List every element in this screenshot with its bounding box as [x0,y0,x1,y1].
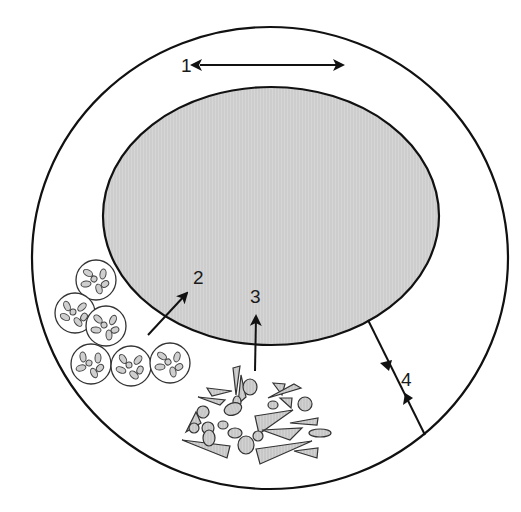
debris-particle [243,379,257,395]
debris-particle [238,436,254,454]
route-4-label: 4 [401,369,412,390]
route-2-label: 2 [193,267,204,288]
debris-particle [268,401,278,409]
debris-particle [218,421,228,429]
granule [70,309,76,315]
debris-particle [228,428,242,438]
route-3-label: 3 [250,286,261,307]
debris-particle [309,429,331,437]
granule [126,362,133,369]
debris-particle [203,430,215,446]
inner-body [103,87,439,345]
debris-particle [253,431,263,441]
cell-diagram: 1 2 3 4 [0,0,521,512]
vesicle [150,343,190,383]
vesicle [86,306,126,346]
granule [95,353,101,363]
vesicle [71,344,111,384]
granule [155,364,165,371]
vesicle [111,346,151,386]
debris-particle [298,397,312,411]
debris-particle [189,423,199,433]
route-1-label: 1 [181,55,192,76]
route-3-arrow [255,316,256,371]
